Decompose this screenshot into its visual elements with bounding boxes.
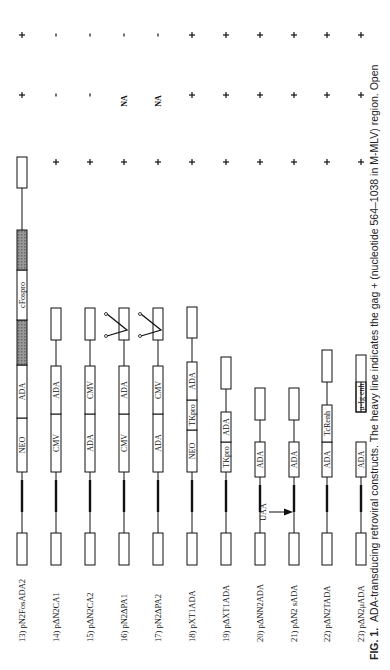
svg-text:ADA: ADA — [86, 434, 95, 452]
ltr-5-box — [255, 533, 265, 565]
construct-22: ADATcRenh — [322, 350, 332, 565]
figure-rotated: NANA NEOADAcFosproCMVADAADACMVCMVADAADAC… — [0, 0, 390, 670]
caption-text: ADA-transducing retroviral constructs. T… — [368, 64, 380, 621]
ltr-3-box — [255, 388, 265, 420]
construct-label: 20) pΔNN2ADA — [255, 583, 265, 642]
svg-text:FIG. 1.ADA-transducing retrovi: FIG. 1.ADA-transducing retroviral constr… — [368, 64, 380, 660]
ltr-5-box — [119, 533, 129, 565]
construct-21: ADA — [289, 388, 299, 565]
svg-text:TKpro: TKpro — [188, 404, 197, 425]
svg-text:ADA: ADA — [222, 418, 231, 436]
svg-text:ADA: ADA — [357, 451, 366, 469]
ltr-5-box — [187, 533, 197, 565]
construct-label: 13) pN2FosADA2 — [17, 579, 27, 642]
construct-label: 14) pΔN2CA1 — [51, 592, 61, 642]
construct-label: 16) pN2ΔPA1 — [119, 594, 129, 642]
construct-diagrams: NEOADAcFosproCMVADAADACMVCMVADAADACMVNEO… — [17, 157, 366, 565]
svg-text:CMV: CMV — [86, 381, 95, 399]
segment-hatched — [17, 230, 27, 270]
ltr-5-box — [221, 533, 231, 565]
construct-label: 22) pΔN2TADA — [322, 585, 332, 642]
figure-caption: FIG. 1.ADA-transducing retroviral constr… — [368, 64, 380, 660]
svg-text:ADA: ADA — [120, 381, 129, 399]
construct-19: TKproADA — [221, 357, 231, 565]
uaa-stop-arrow-icon: UAA — [259, 503, 293, 521]
svg-text:TKpro: TKpro — [222, 446, 231, 467]
construct-label: 21) pΔN2 sADA — [289, 584, 299, 642]
svg-text:ADA: ADA — [323, 451, 332, 469]
ltr-3-box — [322, 350, 332, 382]
svg-text:ADA: ADA — [188, 372, 197, 390]
ltr-3-box — [17, 157, 27, 188]
svg-text:ADA: ADA — [154, 434, 163, 452]
construct-16: CMVADA — [105, 308, 130, 565]
construct-13: NEOADAcFospro — [17, 157, 27, 565]
svg-text:TcRenh: TcRenh — [323, 411, 332, 436]
svg-text:cFospro: cFospro — [18, 282, 27, 308]
ltr-5-box — [85, 533, 95, 565]
svg-text:ADA: ADA — [18, 383, 27, 401]
ltr-5-box — [153, 533, 163, 565]
results-marks: NANA — [19, 32, 364, 165]
ltr-5-box — [322, 533, 332, 565]
svg-text:UAA: UAA — [259, 503, 268, 521]
construct-20: ADAUAA — [255, 388, 293, 565]
construct-17: ADACMV — [139, 308, 164, 565]
result-na: NA — [154, 95, 163, 107]
ltr-5-box — [17, 533, 27, 565]
svg-text:NEO: NEO — [188, 443, 197, 460]
construct-label: 23) pΔN2μADA — [356, 585, 366, 642]
construct-labels: 13) pN2FosADA214) pΔN2CA115) pΔN2CA216) … — [17, 579, 366, 642]
ltr-5-box — [289, 533, 299, 565]
ltr-5-box — [356, 533, 366, 565]
ltr-5-box — [51, 533, 61, 565]
construct-23: ADAμ-Ig enh — [356, 355, 366, 565]
svg-text:ADA: ADA — [290, 451, 299, 469]
ltr-3-box — [289, 388, 299, 420]
construct-label: 18) pXT1ADA — [187, 589, 197, 642]
svg-text:CMV: CMV — [154, 381, 163, 399]
ltr-3-box — [51, 308, 61, 340]
segment-hatched — [17, 320, 27, 365]
construct-18: NEOTKproADA — [187, 307, 197, 565]
construct-label: 19) pΔXT1ADA — [221, 584, 231, 642]
construct-15: ADACMV — [85, 308, 95, 565]
ltr-3-box — [85, 308, 95, 340]
svg-text:ADA: ADA — [256, 451, 265, 469]
svg-text:ADA: ADA — [52, 381, 61, 399]
ltr-3-box — [187, 307, 197, 338]
ltr-3-box — [221, 357, 231, 389]
svg-text:CMV: CMV — [52, 434, 61, 452]
caption-label: FIG. 1. — [368, 628, 380, 660]
construct-label: 15) pΔN2CA2 — [85, 592, 95, 642]
svg-text:CMV: CMV — [120, 434, 129, 452]
construct-label: 17) pN2ΔPA2 — [153, 594, 163, 642]
result-na: NA — [120, 95, 129, 107]
construct-14: CMVADA — [51, 308, 61, 565]
svg-text:NEO: NEO — [18, 437, 27, 454]
